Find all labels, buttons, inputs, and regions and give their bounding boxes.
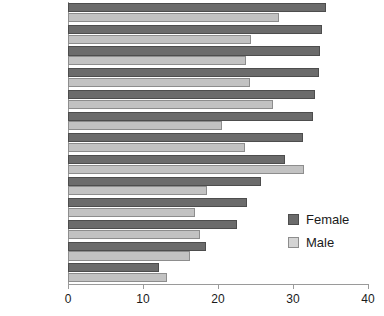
bar-female: [68, 198, 247, 207]
bar-female: [68, 155, 285, 164]
bar-male: [68, 13, 279, 22]
bar-male: [68, 273, 167, 282]
bar-male: [68, 121, 222, 130]
bar-group: Slovakia: [68, 67, 368, 89]
bar-female: [68, 90, 315, 99]
bar-group: Czech Rep.: [68, 154, 368, 176]
bar-male: [68, 35, 251, 44]
x-tick: [293, 284, 294, 289]
bar-female: [68, 220, 237, 229]
bar-male: [68, 208, 195, 217]
x-tick: [218, 284, 219, 289]
bar-female: [68, 46, 320, 55]
x-tick-label: 10: [123, 292, 163, 306]
legend-label-male: Male: [306, 235, 334, 250]
bar-group: Lithuania: [68, 24, 368, 46]
legend-entry-female: Female: [288, 212, 349, 226]
bar-male: [68, 186, 207, 195]
bar-male: [68, 251, 190, 260]
bar-group: Malta: [68, 262, 368, 284]
bar-male: [68, 165, 304, 174]
bar-female: [68, 3, 326, 12]
bar-female: [68, 263, 159, 272]
bar-female: [68, 68, 319, 77]
bar-female: [68, 133, 303, 142]
bar-group: Latvia: [68, 132, 368, 154]
bar-group: Estonia: [68, 45, 368, 67]
x-tick: [68, 284, 69, 289]
bar-chart: HungaryLithuaniaEstoniaSlovakiaPolandSlo…: [0, 0, 384, 316]
bar-male: [68, 78, 250, 87]
x-tick-label: 0: [48, 292, 88, 306]
bar-group: Slovenia: [68, 110, 368, 132]
legend-label-female: Female: [306, 212, 349, 227]
x-tick-label: 20: [198, 292, 238, 306]
bar-female: [68, 177, 261, 186]
bar-group: Poland: [68, 89, 368, 111]
bar-group: Turkey: [68, 176, 368, 198]
bar-male: [68, 100, 273, 109]
legend-swatch-female-icon: [288, 214, 299, 225]
x-tick: [143, 284, 144, 289]
bar-male: [68, 230, 200, 239]
x-tick: [368, 284, 369, 289]
legend-swatch-male-icon: [288, 237, 299, 248]
x-tick-label: 30: [273, 292, 313, 306]
bar-group: Hungary: [68, 2, 368, 24]
x-tick-label: 40: [348, 292, 384, 306]
chart-legend: Female Male: [288, 212, 349, 258]
bar-female: [68, 112, 313, 121]
bar-female: [68, 242, 206, 251]
bar-female: [68, 25, 322, 34]
legend-entry-male: Male: [288, 235, 349, 249]
bar-male: [68, 143, 245, 152]
bar-male: [68, 56, 246, 65]
